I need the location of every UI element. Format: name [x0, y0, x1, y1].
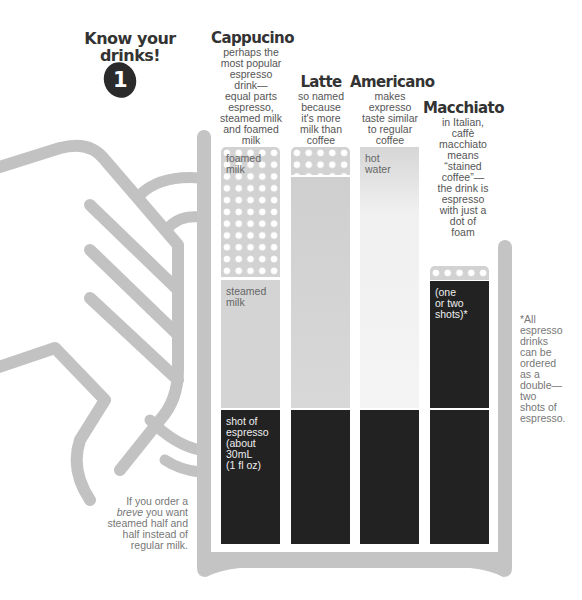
drink-description: makesexpressotaste similarto regularcoff… — [350, 91, 430, 146]
americano-espresso-layer — [360, 410, 419, 544]
drink-name: Macchiato — [423, 100, 503, 117]
latte-steamed-milk-layer — [291, 177, 350, 408]
macchiato-espresso-shots-layer: (oneor twoshots)* — [430, 281, 489, 408]
cup-handle-upper — [140, 178, 200, 195]
cup-right-wall — [498, 240, 512, 570]
drink-description: perhaps themost popularespressodrink—equ… — [211, 47, 291, 146]
latte-espresso-layer — [291, 410, 350, 544]
americano-hot-water-layer: hotwater — [360, 147, 419, 408]
cappucino-foam-layer: foamedmilk — [221, 147, 280, 277]
latte-foam-layer — [291, 147, 350, 175]
page-title: Know your drinks! — [80, 30, 180, 64]
drink-description: so namedbecauseit's moremilk thancoffee — [284, 91, 358, 146]
macchiato-foam-layer — [430, 266, 489, 280]
cappucino-espresso-layer: shot ofespresso(about30mL(1 fl oz) — [221, 410, 280, 544]
drink-name: Cappucino — [211, 30, 291, 47]
cup-handle-lower — [150, 420, 200, 450]
cup-left-wall — [197, 130, 211, 570]
finger-3 — [90, 298, 178, 380]
drink-description: in Italian,caffèmacchiatomeans“stainedco… — [423, 117, 503, 238]
drink-name: Latte — [284, 74, 358, 91]
cup-base — [197, 552, 512, 577]
drink-header-macchiato: Macchiato in Italian,caffèmacchiatomeans… — [423, 100, 503, 238]
drink-header-cappucino: Cappucino perhaps themost popularespress… — [211, 30, 291, 146]
cappucino-steamed-milk-layer: steamedmilk — [221, 280, 280, 408]
macchiato-espresso-layer — [430, 410, 489, 544]
drink-header-latte: Latte so namedbecauseit's moremilk thanc… — [284, 74, 358, 146]
finger-2 — [90, 250, 178, 335]
drink-name: Americano — [350, 74, 430, 91]
breve-note: If you order a breve you want steamed ha… — [90, 496, 188, 551]
double-shot-note: *Allespressodrinkscan beorderedas adoubl… — [520, 314, 580, 424]
finger-1 — [90, 205, 178, 290]
drink-header-americano: Americano makesexpressotaste similarto r… — [350, 74, 430, 146]
